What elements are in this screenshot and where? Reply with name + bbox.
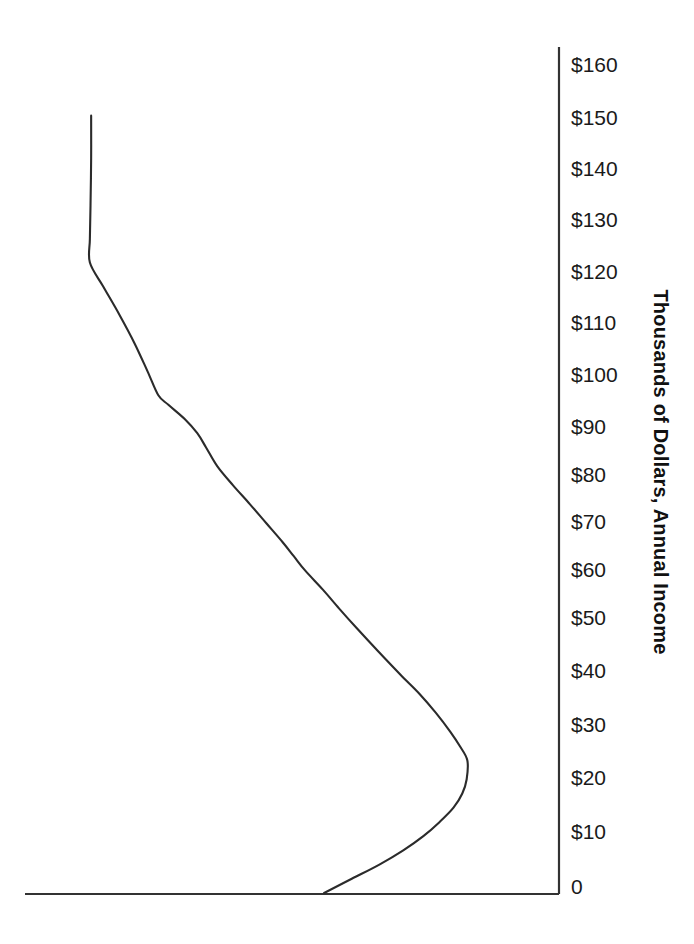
income-distribution-curve [89, 116, 468, 893]
y-axis-title: Thousands of Dollars, Annual Income [649, 289, 672, 654]
y-axis-title-container: Thousands of Dollars, Annual Income [640, 0, 680, 944]
chart-container: $160$150$140$130$120$110$100$90$80$70$60… [0, 0, 694, 944]
chart-plot-area [0, 0, 694, 944]
